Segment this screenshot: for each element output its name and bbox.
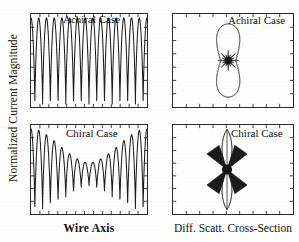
panel-title-chiral-scattering: Chiral Case [231, 127, 283, 139]
panel-achiral-current [30, 13, 148, 108]
achiral-current-curve [31, 18, 147, 104]
y-axis-label-text: Normalized Current Magnitude [7, 34, 19, 182]
panel-title-achiral-current: Achiral Case [63, 13, 120, 25]
panel-title-chiral-current: Chiral Case [66, 127, 118, 139]
achiral-central-starburst [218, 50, 239, 71]
figure-root: Normalized Current Magnitude Achiral Cas… [0, 0, 299, 242]
y-axis-label: Normalized Current Magnitude [0, 8, 26, 208]
x-axis-label-right: Diff. Scatt. Cross-Section [166, 222, 299, 234]
achiral-scattering-plot [173, 14, 293, 107]
achiral-current-plot [31, 14, 147, 107]
panel-title-achiral-scattering: Achiral Case [228, 14, 285, 26]
panel-achiral-scattering [172, 13, 294, 108]
chiral-current-curve [31, 129, 147, 208]
x-axis-label-left: Wire Axis [30, 222, 148, 234]
